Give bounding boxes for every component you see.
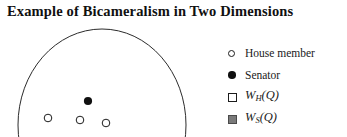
circle-open-icon bbox=[228, 47, 242, 59]
figure-container: Example of Bicameralism in Two Dimension… bbox=[0, 0, 347, 137]
legend-item-house-win-set: WH(Q) bbox=[228, 86, 343, 108]
point-house-member bbox=[102, 119, 110, 127]
legend-label-senate-win-set: WS(Q) bbox=[242, 111, 277, 127]
square-open-icon bbox=[228, 91, 242, 103]
plot-area bbox=[0, 22, 215, 137]
legend-label-senator: Senator bbox=[242, 69, 280, 82]
legend-label-senate-win-set-base: W bbox=[245, 110, 255, 124]
legend-label-house-member: House member bbox=[242, 47, 315, 60]
plot-svg bbox=[0, 22, 215, 137]
legend-label-senate-win-set-arg: (Q) bbox=[260, 110, 277, 124]
legend-item-senator: Senator bbox=[228, 64, 343, 86]
legend-label-house-win-set-arg: (Q) bbox=[262, 88, 279, 102]
point-house-member bbox=[76, 116, 84, 124]
circle-filled-icon bbox=[228, 69, 242, 81]
legend-item-senate-win-set: WS(Q) bbox=[228, 108, 343, 130]
point-senator bbox=[84, 97, 92, 105]
square-filled-icon bbox=[228, 113, 242, 125]
legend-label-house-win-set: WH(Q) bbox=[242, 89, 279, 105]
point-house-member bbox=[44, 114, 52, 122]
legend-label-house-win-set-base: W bbox=[245, 88, 255, 102]
figure-title: Example of Bicameralism in Two Dimension… bbox=[7, 2, 342, 21]
legend: House member Senator WH(Q) WS(Q) bbox=[228, 42, 343, 130]
legend-item-house-member: House member bbox=[228, 42, 343, 64]
win-set-boundary-ellipse bbox=[18, 29, 186, 137]
